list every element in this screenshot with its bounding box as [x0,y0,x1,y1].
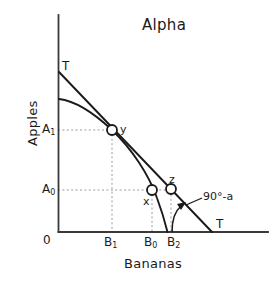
dashed-guides [58,130,171,232]
x-tick-b0-base: B [144,235,152,249]
origin-label: 0 [43,234,51,246]
point-label-z: z [169,174,175,185]
y-tick-a0-label: A0 [42,183,55,195]
y-tick-a1-sub: 1 [50,128,55,137]
marker-point-y [107,125,117,135]
tt-label-lower: T [216,218,223,230]
y-axis-title: Apples [26,100,39,146]
axes [59,15,269,232]
chart-figure: Alpha Apples Bananas 0 A1 A0 B1 B0 B2 y … [0,0,280,286]
tt-label-upper: T [62,60,69,72]
x-axis-title: Bananas [124,257,182,270]
y-tick-a1-base: A [42,122,50,136]
x-tick-b2-sub: 2 [175,241,180,250]
y-tick-a1-label: A1 [42,123,55,135]
point-label-x: x [143,196,150,207]
angle-annotation: 90°-a [203,191,233,202]
x-tick-b1-sub: 1 [112,241,117,250]
y-tick-a0-base: A [42,182,50,196]
marker-point-x [147,185,157,195]
angle-leader-line [186,198,202,205]
chart-title: Alpha [142,18,186,33]
ppf-curve [59,99,168,232]
x-tick-b1-label: B1 [104,236,117,248]
angle-arc-arrow [172,202,186,232]
x-tick-b0-sub: 0 [152,241,157,250]
x-tick-b2-label: B2 [167,236,180,248]
y-tick-a0-sub: 0 [50,188,55,197]
x-tick-b1-base: B [104,235,112,249]
chart-canvas [0,0,280,286]
x-tick-b2-base: B [167,235,175,249]
x-tick-b0-label: B0 [144,236,157,248]
point-label-y: y [120,124,127,135]
tt-line [59,72,212,232]
